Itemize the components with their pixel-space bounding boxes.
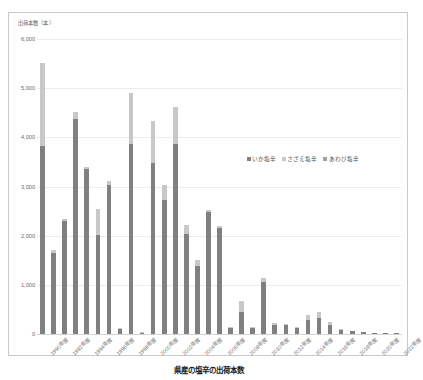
bar-segment[interactable]: [284, 325, 289, 334]
y-axis-tick-label: 1,000: [11, 282, 35, 288]
bar-group[interactable]: [73, 112, 78, 334]
bar-group[interactable]: [162, 185, 167, 334]
bar-group[interactable]: [129, 93, 134, 334]
bar-group[interactable]: [239, 301, 244, 334]
bar-segment[interactable]: [372, 333, 377, 334]
bar-segment[interactable]: [129, 93, 134, 144]
bar-segment[interactable]: [162, 200, 167, 334]
bar-segment[interactable]: [62, 221, 67, 334]
bar-segment[interactable]: [239, 301, 244, 312]
x-axis-tick-label: 2000年度: [159, 336, 180, 357]
bars-layer: [37, 39, 402, 334]
bar-segment[interactable]: [361, 332, 366, 334]
x-axis-tick-label: 2018年度: [358, 336, 379, 357]
bar-group[interactable]: [51, 250, 56, 334]
bar-group[interactable]: [206, 210, 211, 334]
bar-group[interactable]: [339, 329, 344, 334]
bar-segment[interactable]: [350, 331, 355, 334]
legend-item-label: あわび塩辛: [329, 155, 359, 163]
bar-segment[interactable]: [51, 253, 56, 334]
bar-segment[interactable]: [73, 112, 78, 119]
bar-group[interactable]: [394, 333, 399, 334]
bar-segment[interactable]: [239, 312, 244, 334]
bar-segment[interactable]: [173, 144, 178, 334]
legend-item[interactable]: さざえ塩辛: [282, 155, 317, 163]
legend-item[interactable]: あわび塩辛: [323, 155, 358, 163]
bar-segment[interactable]: [295, 328, 300, 334]
bar-group[interactable]: [361, 332, 366, 334]
bar-group[interactable]: [217, 226, 222, 334]
bar-segment[interactable]: [40, 63, 45, 147]
bar-group[interactable]: [272, 323, 277, 334]
bar-group[interactable]: [140, 332, 145, 334]
bar-group[interactable]: [173, 107, 178, 334]
bar-segment[interactable]: [96, 209, 101, 236]
bar-segment[interactable]: [317, 318, 322, 334]
chart-frame: 出荷本数（本） 6,0005,0004,0003,0002,0001,0000 …: [8, 12, 408, 356]
chart-legend: いか塩辛さざえ塩辛あわび塩辛: [247, 155, 359, 163]
bar-group[interactable]: [317, 312, 322, 334]
bar-segment[interactable]: [261, 282, 266, 334]
bar-group[interactable]: [195, 260, 200, 334]
x-axis-tick-label: 1994年度: [92, 336, 113, 357]
bar-segment[interactable]: [306, 320, 311, 334]
legend-item[interactable]: いか塩辛: [247, 155, 276, 163]
bar-segment[interactable]: [339, 330, 344, 334]
bar-segment[interactable]: [184, 225, 189, 234]
bar-group[interactable]: [372, 333, 377, 334]
bar-segment[interactable]: [40, 146, 45, 334]
bar-segment[interactable]: [118, 329, 123, 334]
x-axis-tick-label: 1990年度: [48, 336, 69, 357]
bar-segment[interactable]: [84, 169, 89, 334]
x-axis-tick-label: 2014年度: [313, 336, 334, 357]
bar-group[interactable]: [184, 225, 189, 334]
y-axis-tick-label: 0: [11, 331, 35, 337]
plot-area: [37, 39, 402, 334]
chart-caption: 県産の塩辛の出荷本数: [0, 364, 417, 375]
bar-group[interactable]: [62, 219, 67, 334]
bar-segment[interactable]: [173, 107, 178, 143]
bar-group[interactable]: [151, 121, 156, 334]
y-axis-tick-label: 4,000: [11, 134, 35, 140]
bar-segment[interactable]: [184, 234, 189, 334]
bar-segment[interactable]: [151, 121, 156, 163]
bar-segment[interactable]: [140, 333, 145, 334]
legend-swatch-icon: [282, 157, 286, 161]
bar-group[interactable]: [284, 324, 289, 334]
bar-segment[interactable]: [107, 185, 112, 334]
bar-group[interactable]: [328, 322, 333, 334]
y-axis-tick-label: 2,000: [11, 233, 35, 239]
bar-segment[interactable]: [272, 325, 277, 334]
bar-segment[interactable]: [217, 228, 222, 334]
bar-segment[interactable]: [206, 212, 211, 334]
bar-segment[interactable]: [228, 328, 233, 334]
bar-group[interactable]: [118, 328, 123, 334]
x-axis-tick-label: 2016年度: [336, 336, 357, 357]
bar-group[interactable]: [295, 327, 300, 334]
bar-group[interactable]: [96, 209, 101, 334]
bar-segment[interactable]: [195, 266, 200, 334]
bar-segment[interactable]: [129, 144, 134, 334]
y-axis-title: 出荷本数（本）: [18, 19, 54, 26]
bar-group[interactable]: [107, 181, 112, 334]
bar-segment[interactable]: [383, 333, 388, 334]
x-axis-tick-label: 1992年度: [70, 336, 91, 357]
bar-segment[interactable]: [250, 328, 255, 334]
bar-group[interactable]: [228, 327, 233, 334]
bar-segment[interactable]: [162, 185, 167, 200]
bar-segment[interactable]: [394, 333, 399, 334]
bar-group[interactable]: [84, 167, 89, 334]
x-axis-tick-label: 2010年度: [269, 336, 290, 357]
bar-group[interactable]: [250, 327, 255, 334]
bar-segment[interactable]: [96, 235, 101, 334]
x-axis-tick-label: 2006年度: [225, 336, 246, 357]
bar-segment[interactable]: [151, 163, 156, 334]
bar-group[interactable]: [306, 315, 311, 334]
bar-group[interactable]: [350, 331, 355, 334]
bar-group[interactable]: [261, 278, 266, 334]
bar-group[interactable]: [383, 333, 388, 334]
bar-segment[interactable]: [328, 325, 333, 334]
bar-group[interactable]: [40, 63, 45, 334]
bar-segment[interactable]: [73, 119, 78, 334]
